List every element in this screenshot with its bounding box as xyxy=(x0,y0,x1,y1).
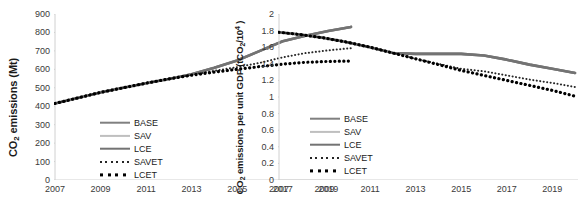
y-tick-label: 700 xyxy=(35,46,50,56)
legend-item-lce[interactable]: LCE xyxy=(310,138,373,151)
x-tick-label: 2017 xyxy=(497,184,517,194)
legend-item-savet[interactable]: SAVET xyxy=(100,155,163,168)
legend-label: LCE xyxy=(344,140,362,150)
legend-item-lcet[interactable]: LCET xyxy=(310,164,373,177)
x-tick-label: 2009 xyxy=(315,184,335,194)
legend-item-base[interactable]: BASE xyxy=(100,116,163,129)
legend-item-savet[interactable]: SAVET xyxy=(310,151,373,164)
legend-item-lcet[interactable]: LCET xyxy=(100,168,163,181)
legend-swatch-lce xyxy=(100,144,130,154)
legend-label: SAV xyxy=(344,127,361,137)
x-tick-label: 2013 xyxy=(182,184,202,194)
y-axis-ticks-right: 00.20.40.60.811.21.41.61.82 xyxy=(248,14,276,180)
plot-area-right: 00.20.40.60.811.21.41.61.82 200720092011… xyxy=(248,0,451,215)
panel-co2-intensity: CO2 emissions per unit GDP (tCO2/104 ) 0… xyxy=(228,0,457,215)
panel-co2-emissions: CO2 emissions (Mt) 010020030040050060070… xyxy=(0,0,228,215)
x-axis-ticks-right: 2007200920112013201520172019 xyxy=(278,184,451,200)
legend-label: SAVET xyxy=(344,153,373,163)
y-tick-label: 900 xyxy=(35,9,50,19)
legend-right: BASESAVLCESAVETLCET xyxy=(310,112,373,177)
legend-item-sav[interactable]: SAV xyxy=(310,125,373,138)
x-tick-label: 2011 xyxy=(360,184,379,194)
x-tick-label: 2007 xyxy=(45,184,65,194)
legend-swatch-lcet xyxy=(310,166,340,176)
y-tick-label: 1.2 xyxy=(261,75,274,85)
x-axis-ticks-left: 2007200920112013201520172019 xyxy=(54,184,224,200)
legend-swatch-savet xyxy=(100,157,130,167)
y-tick-label: 0.8 xyxy=(261,109,274,119)
legend-swatch-base xyxy=(310,114,340,124)
y-axis-ticks-left: 0100200300400500600700800900 xyxy=(24,14,52,180)
plot-area-left: 0100200300400500600700800900 20072009201… xyxy=(24,0,224,215)
x-tick-label: 2009 xyxy=(91,184,111,194)
legend-item-lce[interactable]: LCE xyxy=(100,142,163,155)
y-tick-label: 400 xyxy=(35,101,50,111)
y-tick-label: 1.4 xyxy=(261,59,274,69)
legend-swatch-lce xyxy=(310,140,340,150)
legend-label: SAVET xyxy=(134,157,163,167)
y-axis-title-left: CO2 emissions (Mt) xyxy=(6,0,22,215)
y-tick-label: 0.2 xyxy=(261,158,274,168)
y-axis-title-left-text: CO2 emissions (Mt) xyxy=(7,58,21,157)
legend-swatch-lcet xyxy=(100,170,130,180)
legend-swatch-base xyxy=(100,118,130,128)
legend-swatch-sav xyxy=(100,131,130,141)
y-tick-label: 0.4 xyxy=(261,142,274,152)
x-tick-label: 2011 xyxy=(136,184,155,194)
y-tick-label: 1.8 xyxy=(261,26,274,36)
y-tick-label: 600 xyxy=(35,64,50,74)
y-tick-label: 0.6 xyxy=(261,125,274,135)
legend-item-base[interactable]: BASE xyxy=(310,112,373,125)
y-tick-label: 2 xyxy=(269,9,274,19)
legend-label: BASE xyxy=(134,118,158,128)
y-tick-label: 100 xyxy=(35,157,50,167)
legend-item-sav[interactable]: SAV xyxy=(100,129,163,142)
legend-label: LCET xyxy=(134,170,157,180)
x-tick-label: 2015 xyxy=(451,184,471,194)
y-tick-label: 1 xyxy=(269,92,274,102)
legend-label: BASE xyxy=(344,114,368,124)
y-tick-label: 1.6 xyxy=(261,42,274,52)
y-tick-label: 800 xyxy=(35,27,50,37)
x-tick-label: 2007 xyxy=(269,184,289,194)
legend-label: LCE xyxy=(134,144,152,154)
y-axis-title-right: CO2 emissions per unit GDP (tCO2/104 ) xyxy=(232,0,248,215)
legend-swatch-sav xyxy=(310,127,340,137)
y-tick-label: 500 xyxy=(35,83,50,93)
x-tick-label: 2013 xyxy=(406,184,426,194)
legend-label: SAV xyxy=(134,131,151,141)
y-axis-title-right-text: CO2 emissions per unit GDP (tCO2/104 ) xyxy=(234,21,246,195)
y-tick-label: 200 xyxy=(35,138,50,148)
series-line-savet xyxy=(279,32,575,87)
y-tick-label: 300 xyxy=(35,120,50,130)
legend-left: BASESAVLCESAVETLCET xyxy=(100,116,163,181)
legend-swatch-savet xyxy=(310,153,340,163)
legend-label: LCET xyxy=(344,166,367,176)
x-tick-label: 2019 xyxy=(542,184,562,194)
